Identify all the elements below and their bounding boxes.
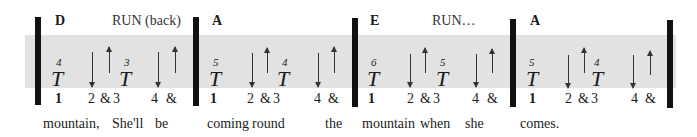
down-strum-arrow-icon xyxy=(410,54,411,87)
up-strum-arrow-icon xyxy=(109,47,110,73)
up-strum-arrow-icon xyxy=(584,48,585,73)
beat-count: 1 xyxy=(55,91,62,107)
beat-count: 3 xyxy=(433,91,440,107)
beat-count: & xyxy=(578,91,589,107)
thumb-strum-icon: T xyxy=(591,66,603,92)
up-strum-arrow-icon xyxy=(650,51,651,75)
lyric-word: when xyxy=(420,116,450,132)
beat-count: 1 xyxy=(210,91,217,107)
down-strum-arrow-icon xyxy=(476,54,477,87)
beat-count: & xyxy=(260,91,271,107)
chord-label: E xyxy=(370,13,379,29)
chord-label: D xyxy=(55,13,65,29)
beat-count: 3 xyxy=(273,91,280,107)
beat-count: 4 xyxy=(314,91,321,107)
beat-count: 4 xyxy=(472,91,479,107)
beat-count: 3 xyxy=(591,91,598,107)
thumb-strum-icon: T xyxy=(51,66,63,92)
thumb-strum-icon: T xyxy=(277,66,289,92)
bar-line-1 xyxy=(35,17,41,105)
up-strum-arrow-icon xyxy=(334,47,335,73)
beat-count: 1 xyxy=(368,91,375,107)
beat-count: 2 xyxy=(565,91,572,107)
thumb-strum-icon: T xyxy=(367,66,379,92)
down-strum-arrow-icon xyxy=(158,52,159,87)
chord-label: A xyxy=(212,13,222,29)
beat-count: 4 xyxy=(631,91,638,107)
beat-count: 2 xyxy=(247,91,254,107)
up-strum-arrow-icon xyxy=(492,49,493,73)
bar-line-5 xyxy=(667,20,673,108)
lyric-word: round xyxy=(252,116,285,132)
beat-count: & xyxy=(645,91,656,107)
bar-line-2 xyxy=(193,17,199,106)
beat-count: 2 xyxy=(407,91,414,107)
thumb-strum-icon: T xyxy=(119,66,131,92)
lyric-word: She'll xyxy=(112,116,143,132)
thumb-strum-icon: T xyxy=(436,66,448,92)
bar-line-4 xyxy=(510,19,516,107)
beat-count: 2 xyxy=(88,91,95,107)
strum-label: RUN (back) xyxy=(112,13,181,29)
beat-count: 4 xyxy=(151,91,158,107)
lyric-word: coming xyxy=(207,116,249,132)
beat-count: & xyxy=(487,91,498,107)
lyric-word: she xyxy=(465,116,484,132)
lyric-word: mountain xyxy=(362,116,415,132)
lyric-word: the xyxy=(325,116,342,132)
lyric-word: be xyxy=(155,116,168,132)
strum-label: RUN… xyxy=(432,13,476,29)
beat-count: & xyxy=(166,91,177,107)
lyric-word: comes. xyxy=(520,116,559,132)
chord-label: A xyxy=(530,13,540,29)
beat-count: & xyxy=(100,91,111,107)
down-strum-arrow-icon xyxy=(92,52,93,87)
up-strum-arrow-icon xyxy=(175,47,176,73)
up-strum-arrow-icon xyxy=(425,48,426,73)
thumb-strum-icon: T xyxy=(526,66,538,92)
lyric-word: mountain, xyxy=(43,116,99,132)
beat-count: & xyxy=(420,91,431,107)
down-strum-arrow-icon xyxy=(318,53,319,87)
bar-line-3 xyxy=(352,18,358,107)
down-strum-arrow-icon xyxy=(633,55,634,88)
down-strum-arrow-icon xyxy=(252,53,253,87)
down-strum-arrow-icon xyxy=(568,55,569,88)
beat-count: & xyxy=(328,91,339,107)
beat-count: 1 xyxy=(529,91,536,107)
thumb-strum-icon: T xyxy=(209,66,221,92)
beat-count: 3 xyxy=(113,91,120,107)
up-strum-arrow-icon xyxy=(267,48,268,73)
